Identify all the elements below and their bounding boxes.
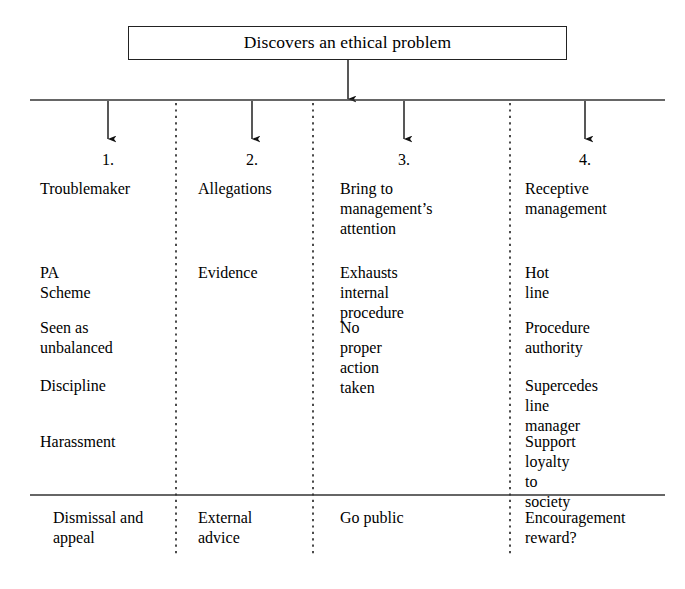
column-1-cell-2: PA Scheme [40, 263, 91, 303]
column-1-cell-3: Seen as unbalanced [40, 318, 113, 358]
column-1-cell-1: Troublemaker [40, 179, 130, 199]
header-box-label: Discovers an ethical problem [244, 34, 451, 52]
outcome-column-4: Encouragement reward? [525, 508, 625, 548]
column-4-cell-5: Support loyalty to society [525, 432, 576, 512]
column-number-4: 4. [565, 152, 605, 168]
column-number-2: 2. [232, 152, 272, 168]
column-4-cell-4: Supercedes line manager [525, 376, 598, 436]
flow-diagram: Discovers an ethical problem 1. 2. 3. 4.… [0, 0, 685, 589]
header-box: Discovers an ethical problem [128, 26, 567, 60]
column-1-cell-5: Harassment [40, 432, 116, 452]
column-2-cell-1: Allegations [198, 179, 272, 199]
column-4-cell-2: Hot line [525, 263, 549, 303]
column-2-cell-2: Evidence [198, 263, 258, 283]
column-1-cell-4: Discipline [40, 376, 106, 396]
column-number-3: 3. [384, 152, 424, 168]
column-4-cell-1: Receptive management [525, 179, 607, 219]
outcome-column-3: Go public [340, 508, 404, 528]
column-3-cell-2: Exhausts internal procedure [340, 263, 404, 323]
column-number-1: 1. [88, 152, 128, 168]
outcome-column-1: Dismissal and appeal [53, 508, 143, 548]
column-4-cell-3: Procedure authority [525, 318, 590, 358]
column-3-cell-1: Bring to management’s attention [340, 179, 432, 239]
outcome-column-2: External advice [198, 508, 252, 548]
column-3-cell-3: No proper action taken [340, 318, 382, 398]
